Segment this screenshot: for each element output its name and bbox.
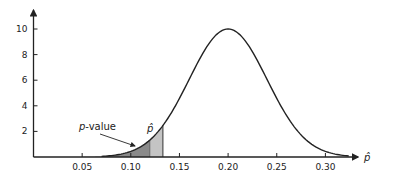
pvalue-arrow (100, 134, 135, 146)
x-tick-label: 0.30 (315, 162, 335, 172)
y-tick-label: 8 (22, 50, 28, 60)
chart: 0.050.100.150.200.250.30246810p̂p-valuep… (0, 0, 395, 174)
x-axis-label: p̂ (363, 152, 371, 163)
phat-label: p̂ (146, 123, 154, 134)
pvalue-label: p-value (78, 121, 116, 132)
x-tick-label: 0.10 (121, 162, 141, 172)
x-tick-label: 0.25 (267, 162, 287, 172)
x-tick-label: 0.20 (218, 162, 238, 172)
plot-area: 0.050.100.150.200.250.30246810p̂p-valuep… (16, 10, 370, 172)
y-tick-label: 10 (16, 24, 28, 34)
x-tick-label: 0.15 (169, 162, 189, 172)
y-tick-label: 4 (22, 101, 28, 111)
pvalue-region (34, 140, 151, 157)
y-tick-label: 6 (22, 75, 28, 85)
normal-curve (102, 29, 349, 156)
x-tick-label: 0.05 (72, 162, 92, 172)
y-tick-label: 2 (22, 126, 28, 136)
